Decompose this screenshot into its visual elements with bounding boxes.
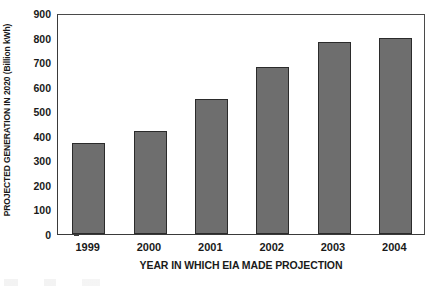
- y-tick-label: 600: [33, 82, 51, 94]
- x-tick-label: 2002: [241, 239, 302, 255]
- bar-chart-figure: PROJECTED GENERATION IN 2020 (Billion kW…: [0, 0, 436, 288]
- y-tick-label: 0: [45, 229, 51, 241]
- x-tick-label: 1999: [57, 239, 118, 255]
- y-tick-label: 100: [33, 204, 51, 216]
- scan-artifact: [4, 279, 154, 286]
- y-tick-label: 200: [33, 180, 51, 192]
- y-tick-label: 900: [33, 8, 51, 20]
- x-tick-label: 2003: [302, 239, 363, 255]
- x-tick-label: 2000: [118, 239, 179, 255]
- bar-2002: [256, 67, 289, 234]
- y-axis-tick-labels: 0100200300400500600700800900: [22, 14, 51, 235]
- bar-2004: [379, 38, 412, 234]
- bar-2001: [195, 99, 228, 234]
- y-tick-label: 300: [33, 155, 51, 167]
- y-tick-label: 800: [33, 33, 51, 45]
- x-axis-tick-labels: 199920002001200220032004: [57, 239, 425, 255]
- bar-1999: [72, 143, 105, 234]
- bar-2000: [134, 131, 167, 234]
- bar-2003: [318, 42, 351, 234]
- plot-area: [57, 14, 425, 235]
- y-tick-label: 400: [33, 131, 51, 143]
- y-tick-mark: [74, 235, 79, 236]
- y-axis-title: PROJECTED GENERATION IN 2020 (Billion kW…: [0, 0, 14, 240]
- bar-series: [58, 15, 424, 234]
- y-tick-label: 700: [33, 57, 51, 69]
- y-tick-label: 500: [33, 106, 51, 118]
- x-tick-label: 2001: [180, 239, 241, 255]
- x-axis-title: YEAR IN WHICH EIA MADE PROJECTION: [57, 258, 425, 272]
- x-tick-label: 2004: [364, 239, 425, 255]
